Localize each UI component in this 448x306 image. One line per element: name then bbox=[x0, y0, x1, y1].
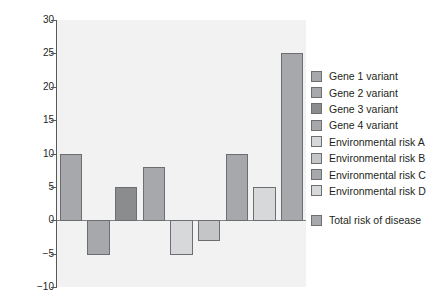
bar bbox=[60, 154, 82, 222]
bar bbox=[226, 154, 248, 222]
bar bbox=[281, 53, 303, 221]
bar bbox=[170, 220, 192, 254]
legend-item: Environmental risk C bbox=[311, 166, 446, 182]
legend-swatch-icon bbox=[311, 71, 322, 82]
legend-label: Environmental risk D bbox=[329, 185, 426, 197]
legend-label: Environmental risk B bbox=[329, 152, 425, 164]
legend-swatch-icon bbox=[311, 136, 322, 147]
legend-item: Environmental risk A bbox=[311, 134, 446, 150]
legend-swatch-icon bbox=[311, 185, 322, 196]
legend-label: Environmental risk C bbox=[329, 169, 426, 181]
bar bbox=[253, 187, 275, 221]
y-tick-label: 15 bbox=[26, 115, 54, 125]
legend-label: Environmental risk A bbox=[329, 136, 425, 148]
y-tick-label: 20 bbox=[26, 82, 54, 92]
bar bbox=[143, 167, 165, 221]
plot-area bbox=[57, 20, 306, 287]
legend-label: Total risk of disease bbox=[329, 214, 421, 226]
legend-item: Environmental risk B bbox=[311, 150, 446, 166]
legend-item: Gene 3 variant bbox=[311, 101, 446, 117]
legend-swatch-icon bbox=[311, 87, 322, 98]
y-tick-label: 30 bbox=[26, 15, 54, 25]
y-tick-label: 5 bbox=[26, 182, 54, 192]
y-tick-label: 0 bbox=[26, 215, 54, 225]
legend-label: Gene 3 variant bbox=[329, 103, 398, 115]
legend-swatch-icon bbox=[311, 169, 322, 180]
y-axis-tick-labels: 302520151050−5−10 bbox=[26, 20, 54, 287]
legend-item: Gene 4 variant bbox=[311, 117, 446, 133]
risk-contribution-chart: Contribution to risk 302520151050−5−10 G… bbox=[0, 0, 448, 306]
legend-label: Gene 2 variant bbox=[329, 87, 398, 99]
bar bbox=[198, 220, 220, 241]
legend-swatch-icon bbox=[311, 153, 322, 164]
legend-label: Gene 1 variant bbox=[329, 70, 398, 82]
legend-label: Gene 4 variant bbox=[329, 119, 398, 131]
y-tick-label: 25 bbox=[26, 48, 54, 58]
legend-swatch-icon bbox=[311, 120, 322, 131]
y-tick-label: −5 bbox=[26, 249, 54, 259]
y-tick-label: 10 bbox=[26, 149, 54, 159]
legend-item: Total risk of disease bbox=[311, 212, 446, 228]
legend-item: Environmental risk D bbox=[311, 183, 446, 199]
legend-swatch-icon bbox=[311, 215, 322, 226]
bar bbox=[115, 187, 137, 221]
legend-swatch-icon bbox=[311, 103, 322, 114]
chart-legend: Gene 1 variantGene 2 variantGene 3 varia… bbox=[311, 68, 446, 229]
bar bbox=[87, 220, 109, 254]
y-tick-mark bbox=[51, 287, 57, 288]
y-tick-label: −10 bbox=[26, 282, 54, 292]
legend-item: Gene 2 variant bbox=[311, 84, 446, 100]
legend-item: Gene 1 variant bbox=[311, 68, 446, 84]
